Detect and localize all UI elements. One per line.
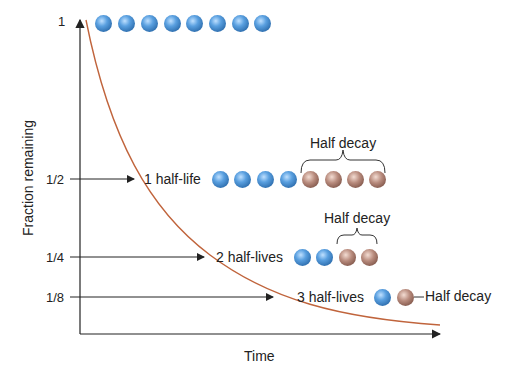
tick-1-4: 1/4 [46, 250, 64, 265]
atom-brown [339, 249, 356, 266]
atom-blue [257, 171, 274, 188]
atom-blue [212, 171, 229, 188]
atom-blue [118, 15, 135, 32]
half-decay-brace-2 [337, 228, 377, 244]
decay-label-3: Half decay [425, 288, 491, 304]
atom-blue [316, 249, 333, 266]
atom-blue [164, 15, 181, 32]
atom-brown [302, 171, 319, 188]
y-axis-label: Fraction remaining [20, 120, 36, 236]
decay-label-1: Half decay [310, 135, 376, 151]
stage-label-3: 3 half-lives [297, 289, 364, 305]
atom-blue [374, 289, 391, 306]
atom-brown [397, 289, 414, 306]
tick-1-8: 1/8 [46, 290, 64, 305]
atom-blue [254, 15, 271, 32]
stage-label-2: 2 half-lives [216, 249, 283, 265]
atom-blue [234, 171, 251, 188]
atom-blue [294, 249, 311, 266]
atom-blue [186, 15, 203, 32]
tick-1: 1 [58, 14, 65, 29]
atom-blue [232, 15, 249, 32]
half-decay-brace-1 [301, 150, 385, 173]
decay-diagram-canvas [0, 0, 518, 380]
atom-blue [209, 15, 226, 32]
atom-brown [369, 171, 386, 188]
atom-brown [347, 171, 364, 188]
atom-blue [280, 171, 297, 188]
atom-brown [361, 249, 378, 266]
x-axis-label: Time [244, 348, 275, 364]
decay-label-2: Half decay [324, 210, 390, 226]
tick-1-2: 1/2 [46, 172, 64, 187]
atom-brown [325, 171, 342, 188]
atom-blue [141, 15, 158, 32]
stage-label-1: 1 half-life [144, 171, 201, 187]
atom-blue [95, 15, 112, 32]
